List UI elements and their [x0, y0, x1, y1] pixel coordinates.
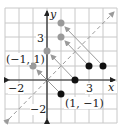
- point-4-1: [100, 63, 107, 70]
- y-axis-label: y: [49, 8, 57, 21]
- y-tick-label-3: 3: [37, 32, 44, 45]
- x-tick-label-3: 3: [86, 82, 93, 95]
- point-1-neg1: [58, 91, 65, 98]
- point-3-1: [86, 63, 93, 70]
- y-tick-label-neg2: −2: [30, 103, 46, 116]
- point-1-3: [58, 34, 65, 41]
- coordinate-plane: y x 3 −2 −2 3 (−1, 1) (1, −1): [0, 0, 126, 129]
- x-tick-label-neg2: −2: [8, 82, 24, 95]
- point-1-4: [58, 20, 65, 27]
- point-2-0: [72, 77, 79, 84]
- point-label-neg1-1: (−1, 1): [6, 53, 45, 66]
- arrow-2: [51, 55, 75, 80]
- point-label-1-neg1: (1, −1): [65, 97, 104, 110]
- arrow-1: [37, 70, 61, 94]
- arrow-3: [65, 41, 89, 66]
- x-axis-label: x: [108, 81, 115, 94]
